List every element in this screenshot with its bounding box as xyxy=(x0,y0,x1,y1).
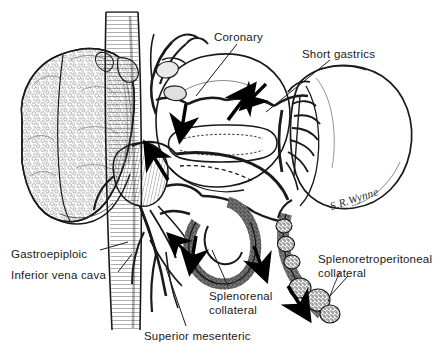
label-coronary: Coronary xyxy=(214,31,263,45)
label-inferior-vena-cava: Inferior vena cava xyxy=(11,269,106,283)
label-superior-mesenteric: Superior mesenteric xyxy=(144,330,251,344)
label-short-gastrics: Short gastrics xyxy=(302,48,375,62)
splenorenal-collateral xyxy=(160,202,256,284)
label-gastroepiploic: Gastroepiploic xyxy=(11,248,87,262)
anatomical-illustration: Coronary Short gastrics Gastroepiploic I… xyxy=(0,0,436,358)
tubular-vessel xyxy=(169,125,278,162)
spleen xyxy=(290,65,411,208)
leader-superior-mesenteric xyxy=(166,268,186,326)
superior-mesenteric-vein xyxy=(140,206,182,296)
label-splenoretroperitoneal-collateral: Splenoretroperitoneal collateral xyxy=(318,253,433,280)
label-splenorenal-collateral: Splenorenal collateral xyxy=(209,290,299,317)
